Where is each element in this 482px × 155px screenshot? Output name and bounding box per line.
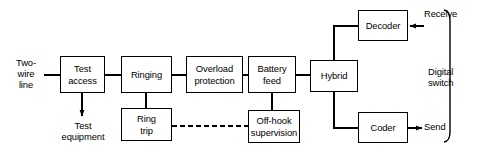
block-off-hook-supervision[interactable]: Off-hook supervision (248, 110, 300, 143)
connector-hybrid-to-decoder (334, 26, 358, 60)
block-decoder-label: Decoder (366, 20, 401, 31)
label-test-equipment: Test equipment (44, 120, 122, 142)
block-battery-feed[interactable]: Battery feed (248, 56, 296, 93)
block-coder-label: Coder (370, 122, 395, 133)
label-receive: Receive (424, 8, 470, 19)
block-ring-trip[interactable]: Ring trip (121, 108, 172, 141)
block-battery-feed-label: Battery feed (258, 63, 287, 85)
block-ring-trip-label: Ring trip (137, 113, 156, 135)
block-ringing-label: Ringing (131, 69, 162, 80)
block-test-access[interactable]: Test access (60, 56, 105, 93)
block-coder[interactable]: Coder (358, 112, 408, 143)
label-two-wire-line: Two- wire line (6, 57, 46, 91)
block-diagram: Test access Ringing Overload protection … (0, 0, 482, 155)
block-hybrid[interactable]: Hybrid (310, 60, 358, 92)
connector-hybrid-to-coder (334, 92, 358, 128)
block-overload-protection[interactable]: Overload protection (186, 56, 243, 93)
block-ringing[interactable]: Ringing (121, 56, 172, 93)
label-digital-switch: Digital switch (428, 66, 478, 88)
block-overload-protection-label: Overload protection (194, 63, 234, 85)
block-decoder[interactable]: Decoder (358, 10, 408, 41)
block-hybrid-label: Hybrid (321, 70, 348, 81)
block-test-access-label: Test access (68, 63, 97, 85)
block-off-hook-supervision-label: Off-hook supervision (251, 115, 297, 137)
label-send: Send (424, 121, 464, 132)
